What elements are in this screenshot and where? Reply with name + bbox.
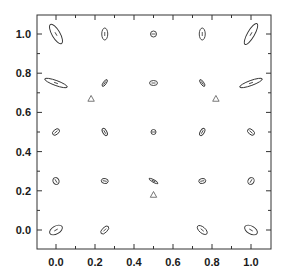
x-axis-ticks: 0.00.20.40.60.81.0 — [48, 15, 258, 268]
error-ellipse — [102, 28, 108, 40]
triangle-marker — [213, 95, 219, 101]
error-ellipse — [101, 79, 108, 87]
error-ellipse — [247, 176, 256, 185]
error-ellipse — [239, 77, 263, 90]
y-axis-ticks: 0.00.20.40.60.81.0 — [16, 28, 271, 236]
error-ellipse — [52, 176, 61, 185]
error-ellipse — [51, 128, 60, 137]
error-ellipse — [101, 128, 108, 137]
triangle-marker — [150, 192, 156, 198]
error-ellipse — [196, 224, 209, 236]
y-tick-label: 1.0 — [16, 28, 31, 40]
error-ellipse — [151, 31, 157, 37]
error-ellipse — [246, 128, 255, 137]
ellipse-scatter-plot: 0.00.20.40.60.81.0 0.00.20.40.60.81.0 — [0, 0, 283, 280]
error-ellipse — [198, 178, 206, 184]
x-tick-label: 0.0 — [48, 256, 63, 268]
error-ellipse — [199, 128, 206, 137]
x-tick-label: 0.2 — [87, 256, 102, 268]
error-ellipse — [44, 77, 68, 90]
error-ellipse — [151, 130, 156, 135]
y-tick-label: 0.8 — [16, 67, 31, 79]
error-ellipse — [48, 223, 64, 237]
error-ellipse — [242, 22, 260, 46]
y-tick-label: 0.2 — [16, 185, 31, 197]
ellipse-markers — [44, 22, 263, 237]
error-ellipse — [99, 225, 110, 236]
error-ellipse — [243, 223, 259, 237]
error-ellipse — [199, 28, 205, 40]
y-tick-label: 0.6 — [16, 106, 31, 118]
x-tick-label: 0.6 — [165, 256, 180, 268]
y-tick-label: 0.4 — [16, 146, 32, 158]
x-tick-label: 0.4 — [126, 256, 142, 268]
triangle-marker — [88, 95, 94, 101]
y-tick-label: 0.0 — [16, 224, 31, 236]
error-ellipse — [149, 177, 159, 184]
error-ellipse — [150, 81, 158, 86]
error-ellipse — [47, 22, 65, 45]
error-ellipse — [199, 79, 206, 87]
x-tick-label: 0.8 — [204, 256, 219, 268]
error-ellipse — [101, 178, 109, 184]
x-tick-label: 1.0 — [243, 256, 258, 268]
